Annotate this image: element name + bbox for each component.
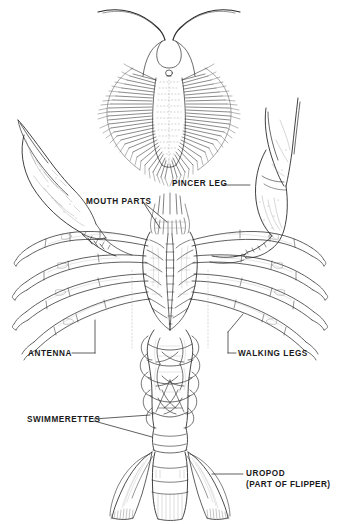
segmented-abdomen: [140, 330, 200, 453]
label-antenna-text: ANTENNA: [28, 349, 72, 358]
label-swimmerettes-text: SWIMMERETTES: [27, 415, 100, 424]
label-mouth-parts: MOUTH PARTS: [86, 196, 151, 207]
leader-swimmerettes-b: [94, 421, 152, 437]
walking-legs-right: [190, 230, 328, 360]
label-uropod-subtext: (PART OF FLIPPER): [246, 479, 330, 490]
label-pincer-leg: PINCER LEG: [172, 178, 228, 189]
label-uropod: UROPOD (PART OF FLIPPER): [246, 468, 330, 490]
tail-fan-uropods: [110, 452, 230, 521]
label-pincer-leg-text: PINCER LEG: [172, 179, 228, 188]
label-uropod-text: UROPOD: [246, 469, 285, 478]
larval-stage-figure: [98, 10, 240, 186]
label-swimmerettes: SWIMMERETTES: [27, 414, 100, 425]
walking-legs-left: [12, 230, 150, 360]
label-walking-legs: WALKING LEGS: [238, 348, 308, 359]
illustration-page: PINCER LEG MOUTH PARTS ANTENNA WALKING L…: [0, 0, 337, 524]
left-pincer-claw: [18, 120, 132, 256]
label-mouth-parts-text: MOUTH PARTS: [86, 197, 151, 206]
leader-walking-legs-branch: [228, 314, 243, 332]
label-walking-legs-text: WALKING LEGS: [238, 349, 308, 358]
lobster-anatomy-illustration: [0, 0, 337, 524]
leader-swimmerettes-a: [94, 415, 150, 419]
label-antenna: ANTENNA: [28, 348, 72, 359]
